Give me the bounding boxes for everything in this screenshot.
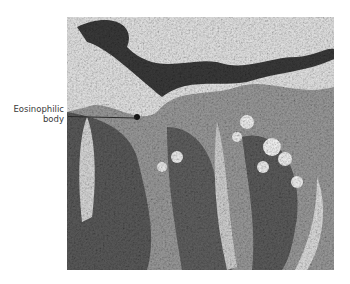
annotation-label-line2: body [0,114,64,124]
micrograph [67,17,334,270]
figure: Eosinophilic body [0,0,350,284]
annotation-label: Eosinophilic body [0,104,64,124]
annotation-label-line1: Eosinophilic [0,104,64,114]
